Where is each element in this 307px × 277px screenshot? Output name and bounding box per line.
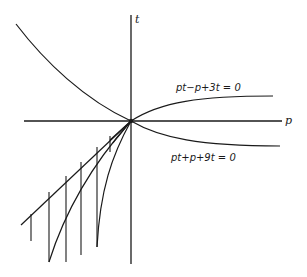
- origin-point: [129, 119, 133, 123]
- phase-diagram: t p pt−p+3t = 0 pt+p+9t = 0: [0, 0, 307, 277]
- converging-line-1: [110, 121, 131, 140]
- t-axis-label: t: [135, 13, 140, 26]
- equation-label-lower: pt+p+9t = 0: [170, 152, 236, 163]
- curve-pt-minus-p-plus-3t: [131, 96, 273, 121]
- curve-pt-plus-p-plus-9t: [131, 121, 280, 146]
- p-axis-label: p: [285, 114, 292, 127]
- lower-left-curve-inner: [97, 121, 131, 247]
- curve-upper-left: [16, 24, 131, 121]
- equation-label-upper: pt−p+3t = 0: [175, 82, 241, 93]
- lower-left-curve-outer: [49, 121, 131, 262]
